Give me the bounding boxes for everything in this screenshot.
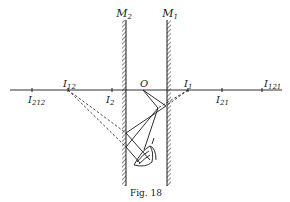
label-i212: I212 <box>27 94 46 107</box>
label-i12: I12 <box>62 78 76 91</box>
solid-rays <box>126 90 166 163</box>
mirror-m2 <box>122 20 126 186</box>
eye-icon <box>134 138 156 166</box>
mirror-m1 <box>167 20 171 186</box>
label-i121: I121 <box>263 78 281 91</box>
two-mirror-diagram: M2 M1 O I1 I2 I12 I21 I212 I121 Fig. 18 <box>0 0 290 202</box>
label-i21: I21 <box>215 94 229 107</box>
label-i2: I2 <box>105 94 115 107</box>
label-o: O <box>140 78 148 89</box>
label-m2: M2 <box>115 7 132 21</box>
figure-caption: Fig. 18 <box>130 188 162 198</box>
label-i1: I1 <box>183 78 192 91</box>
label-m1: M1 <box>161 7 178 21</box>
